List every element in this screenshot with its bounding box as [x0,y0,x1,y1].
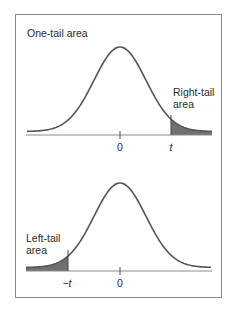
figure-title: One-tail area [27,27,88,39]
right-tail-shaded-area [171,119,212,135]
right-tail-label-line1: Right-tail [173,86,214,98]
left-tail-label-line1: Left-tail [26,232,60,244]
bottom-tick-label-zero: 0 [110,277,130,289]
one-tail-area-diagram [0,0,233,315]
left-tail-area-label: Left-tail area [26,232,60,256]
left-tail-panel [26,183,212,275]
top-tick-label-t: t [161,141,181,153]
left-tail-label-line2: area [26,244,60,256]
bottom-tick-label-neg-t: −t [57,277,77,289]
right-tail-label-line2: area [173,98,214,110]
top-tick-label-zero: 0 [110,141,130,153]
right-tail-area-label: Right-tail area [173,86,214,110]
left-tail-shaded-area [26,256,68,271]
